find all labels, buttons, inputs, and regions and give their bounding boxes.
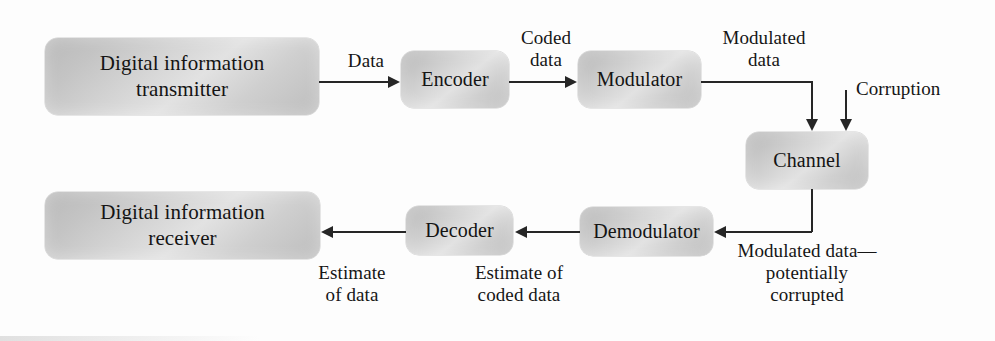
arrowhead-decoder-input [515,226,527,238]
connector-demodulator-to-decoder [527,231,580,233]
edge-label-modulated-data-corrupted: Modulated data— potentially corrupted [716,240,898,306]
arrowhead-channel-input-modulated [806,119,818,131]
edge-label-modulated-data: Modulated data [700,27,828,71]
arrowhead-channel-input-corruption [840,119,852,131]
block-label-channel: Channel [767,148,846,172]
edge-label-estimate-of-data: Estimate of data [298,262,406,306]
block-label-receiver: Digital information receiver [94,200,271,251]
connector-channel-to-demodulator-horizontal [726,231,812,233]
edge-label-estimate-of-coded-data: Estimate of coded data [455,262,583,306]
block-digital-information-transmitter: Digital information transmitter [45,38,319,115]
connector-decoder-to-receiver [333,231,406,233]
block-label-decoder: Decoder [419,218,499,242]
connector-modulator-to-channel-horizontal [701,81,813,83]
arrowhead-receiver-input [321,226,333,238]
arrowhead-encoder-input [388,76,400,88]
connector-channel-to-demodulator-vertical [811,189,813,232]
block-modulator: Modulator [578,51,701,108]
block-label-modulator: Modulator [591,67,688,91]
connector-corruption-to-channel [845,90,847,121]
block-channel: Channel [746,132,868,189]
block-demodulator: Demodulator [580,207,713,256]
edge-label-corruption: Corruption [856,78,986,100]
scan-edge-artifact [0,336,260,341]
edge-label-data: Data [330,50,402,72]
block-label-transmitter: Digital information transmitter [94,51,271,102]
block-diagram-canvas: Digital information transmitter Data Enc… [0,0,995,341]
block-encoder: Encoder [401,51,509,108]
arrowhead-demodulator-input [714,226,726,238]
connector-transmitter-to-encoder [319,81,389,83]
block-decoder: Decoder [406,206,513,255]
block-label-demodulator: Demodulator [587,219,706,243]
connector-encoder-to-modulator [509,81,566,83]
block-digital-information-receiver: Digital information receiver [45,192,320,259]
block-label-encoder: Encoder [415,67,494,91]
connector-modulator-to-channel-vertical [811,81,813,121]
arrowhead-modulator-input [565,76,577,88]
